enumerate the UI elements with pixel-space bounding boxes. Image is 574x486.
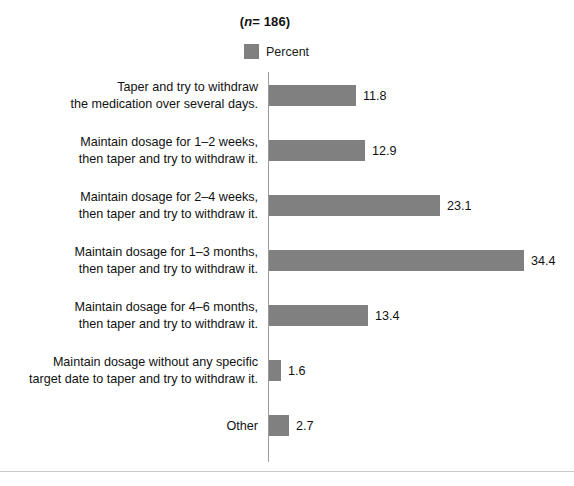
bar-group: 23.1 (269, 195, 472, 216)
bar-value-label: 23.1 (447, 199, 472, 213)
bar-segment (269, 85, 356, 106)
category-label: Maintain dosage for 4–6 months, then tap… (0, 299, 258, 332)
bar-segment (269, 360, 281, 381)
category-label: Maintain dosage for 2–4 weeks, then tape… (0, 189, 258, 222)
legend-swatch-percent (244, 44, 259, 59)
bar-segment (269, 140, 365, 161)
chart-legend: Percent (244, 44, 309, 59)
bar-group: 1.6 (269, 360, 306, 381)
bottom-divider (0, 471, 574, 472)
bar-value-label: 12.9 (372, 144, 397, 158)
bar-row: Maintain dosage for 4–6 months, then tap… (0, 292, 574, 347)
bar-row: Other 2.7 (0, 402, 574, 457)
bar-value-label: 13.4 (375, 309, 400, 323)
bar-group: 13.4 (269, 305, 400, 326)
legend-label-percent: Percent (266, 45, 309, 59)
bar-group: 2.7 (269, 415, 314, 436)
category-label: Maintain dosage for 1–3 months, then tap… (0, 244, 258, 277)
bar-row: Maintain dosage for 1–2 weeks, then tape… (0, 127, 574, 182)
bar-segment (269, 250, 524, 271)
bar-value-label: 11.8 (363, 89, 387, 103)
bar-group: 34.4 (269, 250, 556, 271)
bar-row: Maintain dosage without any specific tar… (0, 347, 574, 402)
chart-title: (n= 186) (0, 14, 530, 29)
category-label: Other (0, 418, 258, 435)
chart-title-suffix: = 186) (252, 14, 290, 29)
category-label: Maintain dosage without any specific tar… (0, 354, 258, 387)
bar-segment (269, 195, 440, 216)
bar-value-label: 2.7 (296, 419, 314, 433)
bar-value-label: 1.6 (288, 364, 306, 378)
bar-row: Maintain dosage for 1–3 months, then tap… (0, 237, 574, 292)
bar-row: Taper and try to withdraw the medication… (0, 72, 574, 127)
plot-area: Taper and try to withdraw the medication… (0, 72, 574, 464)
bar-segment (269, 305, 368, 326)
bar-segment (269, 415, 289, 436)
bar-row: Maintain dosage for 2–4 weeks, then tape… (0, 182, 574, 237)
bar-group: 12.9 (269, 140, 397, 161)
bar-chart-figure: (n= 186) Percent Taper and try to withdr… (0, 0, 574, 486)
category-label: Maintain dosage for 1–2 weeks, then tape… (0, 134, 258, 167)
bar-value-label: 34.4 (531, 254, 556, 268)
bar-group: 11.8 (269, 85, 387, 106)
category-label: Taper and try to withdraw the medication… (0, 79, 258, 112)
